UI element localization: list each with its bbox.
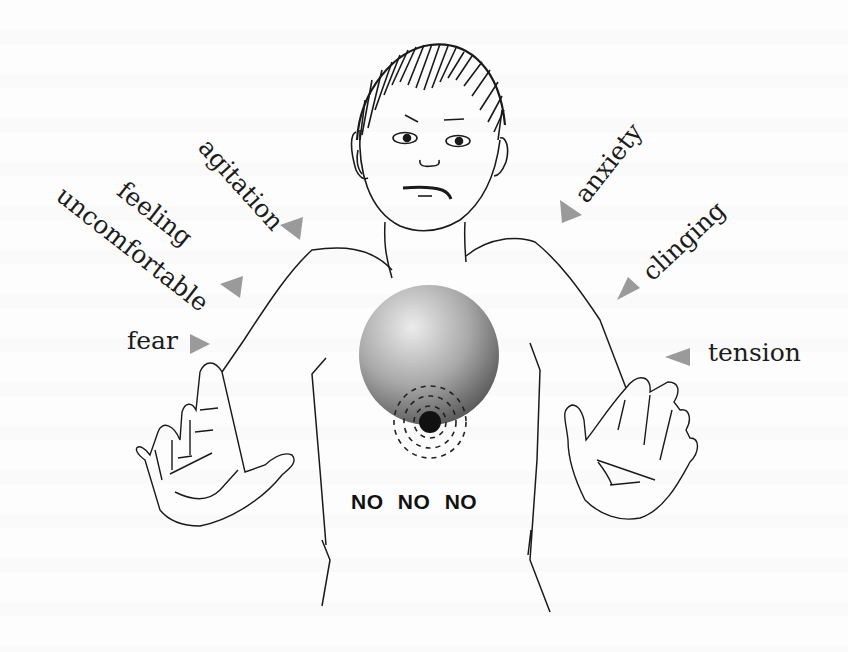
label-tension: tension xyxy=(708,340,801,365)
arrow-fear xyxy=(190,334,210,354)
arrow-anxiety xyxy=(560,200,582,223)
chest-sphere xyxy=(359,285,499,458)
no-no-no-text: NO NO NO xyxy=(351,490,477,514)
label-fear: fear xyxy=(127,328,178,353)
right-hand xyxy=(565,378,698,519)
left-hand xyxy=(136,363,294,526)
arrow-feeling-uncomfortable xyxy=(220,276,243,298)
hair xyxy=(357,44,505,140)
face xyxy=(352,115,508,231)
arrow-tension xyxy=(665,348,690,366)
arrow-clinging xyxy=(617,277,640,300)
illustration-page: agitation feeling uncomfortable fear anx… xyxy=(0,0,848,652)
